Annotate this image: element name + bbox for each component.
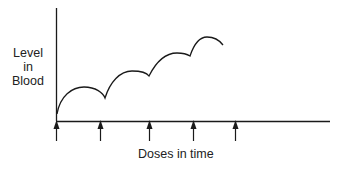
y-label-line-3: Blood (8, 74, 48, 88)
dose-accumulation-diagram: Level in Blood Doses in time (0, 0, 347, 169)
dose-arrow-icon (233, 120, 239, 141)
dose-arrow-icon (98, 120, 104, 141)
diagram-graphic (0, 0, 347, 169)
y-label-line-1: Level (8, 46, 48, 60)
y-label-line-2: in (8, 60, 48, 74)
y-axis-label: Level in Blood (8, 46, 48, 88)
dose-arrow-icon (191, 120, 197, 141)
x-axis-label: Doses in time (138, 147, 214, 161)
dose-arrow-icon (54, 120, 60, 141)
blood-level-curve (57, 37, 223, 114)
dose-arrow-icon (147, 120, 153, 141)
